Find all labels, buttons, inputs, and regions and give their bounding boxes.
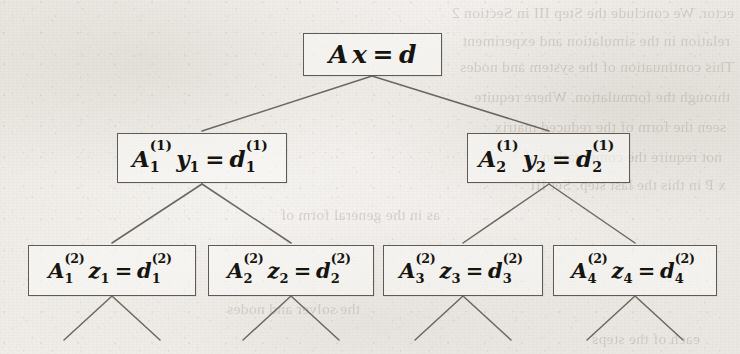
unknown-vector: z4 — [612, 260, 624, 281]
stub-n2-2-right — [291, 296, 339, 340]
rhs-symbol: d(2)1 — [137, 260, 152, 281]
rhs-symbol: d(2)4 — [660, 260, 675, 281]
unknown-vector: y2 — [523, 147, 536, 170]
tree-node-level2-2: A (2) 2 z2=d(2)2 — [208, 245, 374, 296]
unknown-vector: z2 — [268, 260, 280, 281]
rhs-symbol: d(2)2 — [316, 260, 331, 281]
edge-n1-2-to-n2-4 — [549, 184, 635, 243]
stub-n2-3-right — [463, 296, 511, 340]
stub-n2-4-left — [587, 296, 635, 340]
equation-n2-2: A (2) 2 z2=d(2)2 — [227, 260, 355, 281]
stub-n2-3-left — [415, 296, 463, 340]
stub-n2-4-right — [635, 296, 683, 340]
edge-n1-2-to-n2-3 — [463, 184, 549, 243]
equals-sign: = — [638, 260, 656, 281]
edge-root-to-n1-2 — [372, 76, 549, 131]
matrix-symbol: A (2) 3 — [399, 260, 415, 281]
equals-sign: = — [205, 147, 224, 170]
matrix-symbol: A — [329, 42, 348, 67]
decomposition-tree: A x=d A (1) 1 y1=d(1)1 A (1) 2 y2=d(1)2 — [0, 0, 740, 354]
stub-n2-2-left — [243, 296, 291, 340]
rhs-symbol: d(1)2 — [576, 147, 592, 170]
tree-node-level2-1: A (2) 1 z1=d(2)1 — [28, 245, 196, 296]
tree-node-level2-3: A (2) 3 z3=d(2)3 — [383, 245, 543, 296]
equation-n1-2: A (1) 2 y2=d(1)2 — [478, 147, 618, 170]
matrix-symbol: A (2) 1 — [48, 260, 64, 281]
scanned-page: ector. We conclude the Step III in Secti… — [0, 0, 740, 354]
equals-sign: = — [466, 260, 484, 281]
unknown-vector: z3 — [440, 260, 452, 281]
edge-n1-1-to-n2-1 — [112, 184, 202, 243]
edge-root-to-n1-1 — [202, 76, 372, 131]
tree-node-level1-2: A (1) 2 y2=d(1)2 — [467, 133, 630, 183]
unknown-vector: y1 — [176, 147, 189, 170]
unknown-vector: z1 — [89, 260, 101, 281]
equation-n1-1: A (1) 1 y1=d(1)1 — [132, 147, 272, 170]
rhs-symbol: d — [399, 42, 416, 67]
equation-root: A x=d — [329, 42, 417, 67]
edge-n1-1-to-n2-2 — [202, 184, 291, 243]
rhs-symbol: d(2)3 — [488, 260, 503, 281]
equals-sign: = — [294, 260, 312, 281]
matrix-symbol: A (1) 2 — [478, 147, 496, 170]
tree-node-level1-1: A (1) 1 y1=d(1)1 — [117, 133, 287, 183]
equation-n2-4: A (2) 4 z4=d(2)4 — [571, 260, 699, 281]
equation-n2-3: A (2) 3 z3=d(2)3 — [399, 260, 527, 281]
matrix-symbol: A (2) 4 — [571, 260, 587, 281]
equation-n2-1: A (2) 1 z1=d(2)1 — [48, 260, 176, 281]
rhs-symbol: d(1)1 — [230, 147, 246, 170]
stub-n2-1-right — [112, 296, 160, 340]
equals-sign: = — [552, 147, 571, 170]
tree-node-root: A x=d — [303, 33, 442, 76]
equals-sign: = — [115, 260, 133, 281]
equals-sign: = — [372, 42, 393, 67]
matrix-symbol: A (1) 1 — [132, 147, 150, 170]
unknown-vector: x — [352, 42, 367, 67]
stub-n2-1-left — [64, 296, 112, 340]
matrix-symbol: A (2) 2 — [227, 260, 243, 281]
tree-node-level2-4: A (2) 4 z4=d(2)4 — [553, 245, 717, 296]
